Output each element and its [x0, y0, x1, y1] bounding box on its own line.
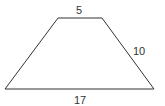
trapezoid-shape — [5, 18, 154, 89]
top-side-label: 5 — [76, 4, 82, 16]
right-side-label: 10 — [133, 45, 145, 57]
bottom-side-label: 17 — [74, 94, 86, 106]
trapezoid-diagram: 5 10 17 — [0, 0, 165, 106]
